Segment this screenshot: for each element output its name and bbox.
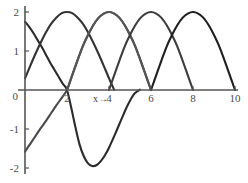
curve-6 — [151, 12, 235, 90]
plot-figure: 246810210-1-2 x→ — [0, 0, 248, 183]
curve-5 — [109, 12, 193, 90]
curve-1 — [25, 22, 140, 166]
x-axis-label: x→ — [93, 93, 108, 104]
y-tick-label: -2 — [10, 162, 19, 174]
x-tick-label: 8 — [190, 92, 196, 104]
curves-layer — [25, 12, 235, 166]
x-tick-label: 2 — [64, 92, 70, 104]
y-tick-label: -1 — [10, 123, 19, 135]
x-tick-label: 6 — [148, 92, 154, 104]
curve-3 — [25, 12, 114, 90]
plot-canvas: 246810210-1-2 x→ — [0, 0, 248, 183]
y-tick-label: 2 — [14, 6, 20, 18]
y-tick-label: 0 — [13, 90, 19, 102]
x-tick-label: 10 — [230, 92, 242, 104]
y-tick-label: 1 — [14, 45, 20, 57]
